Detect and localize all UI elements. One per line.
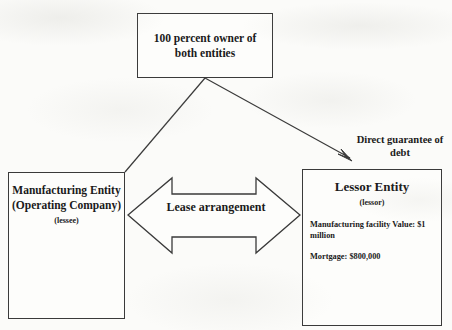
- lessor-entity-details: Manufacturing facility Value: $1 million…: [303, 220, 441, 264]
- owner-box-label: 100 percent owner of both entities: [138, 31, 272, 60]
- lease-arrangement-label: Lease arrangement: [150, 200, 282, 215]
- manufacturing-entity-role: (lessee): [9, 216, 124, 225]
- direct-guarantee-label: Direct guarantee of debt: [349, 134, 451, 160]
- ownership-line-to-manufacturing: [125, 78, 205, 172]
- lease-arrangement-diagram: 100 percent owner of both entities Manuf…: [0, 0, 452, 330]
- lessor-detail-facility-value: Manufacturing facility Value: $1 million: [310, 220, 441, 242]
- manufacturing-entity-box: Manufacturing Entity (Operating Company)…: [8, 172, 125, 319]
- lessor-entity-box: Lessor Entity (lessor) Manufacturing fac…: [302, 169, 442, 326]
- lessor-entity-role: (lessor): [303, 198, 441, 207]
- lessor-detail-mortgage: Mortgage: $800,000: [310, 252, 441, 263]
- lessor-entity-title: Lessor Entity: [303, 179, 441, 195]
- ownership-line-to-lessor: [205, 78, 350, 158]
- owner-box: 100 percent owner of both entities: [137, 13, 273, 78]
- manufacturing-entity-title: Manufacturing Entity (Operating Company): [9, 183, 124, 213]
